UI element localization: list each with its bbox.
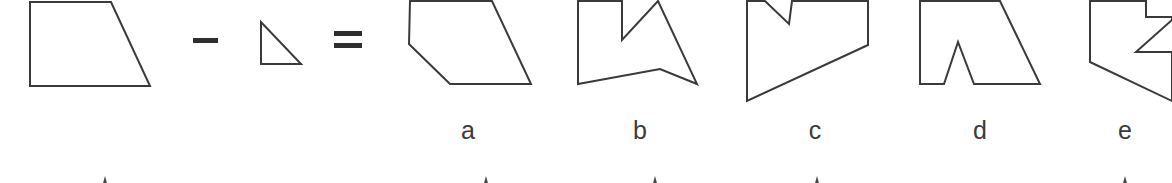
next-row-tick-3 (653, 176, 657, 183)
choice-shape-d[interactable] (920, 1, 1040, 84)
choice-shape-e[interactable] (1090, 1, 1172, 101)
choice-label-e[interactable]: e (1118, 118, 1132, 143)
minus-operator-icon (193, 38, 218, 43)
choice-shape-a[interactable] (409, 1, 531, 84)
minuend-trapezoid (30, 2, 150, 86)
subtrahend-triangle (261, 22, 301, 64)
geometry-figure: a b c d e (0, 0, 1172, 183)
choice-label-a[interactable]: a (461, 118, 475, 143)
next-row-tick-1 (103, 176, 107, 183)
choice-label-c[interactable]: c (809, 118, 822, 143)
choice-shape-c[interactable] (747, 1, 868, 101)
choice-label-d[interactable]: d (973, 118, 987, 143)
choice-shape-b[interactable] (578, 1, 697, 84)
next-row-tick-2 (484, 176, 488, 183)
equals-operator-icon-bottom (334, 43, 362, 48)
next-row-tick-4 (815, 176, 819, 183)
next-row-tick-5 (1123, 176, 1127, 183)
choice-label-b[interactable]: b (633, 118, 647, 143)
figure-canvas (0, 0, 1172, 183)
equals-operator-icon-top (334, 31, 362, 36)
